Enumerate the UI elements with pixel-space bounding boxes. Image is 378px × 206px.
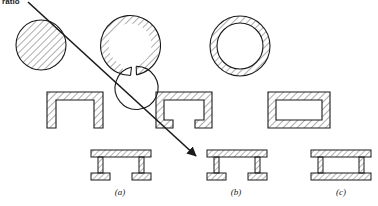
closed-box-beam [311, 150, 371, 180]
figure-drawing [0, 0, 378, 206]
split-flange-box-beam [207, 150, 267, 180]
lipped-channel-section [156, 92, 212, 128]
open-channel-section [47, 92, 103, 128]
caption-label-c: (c) [336, 187, 346, 197]
solid-circle-section [16, 20, 66, 70]
closed-box-section [268, 92, 330, 128]
caption-label-a: (a) [115, 187, 126, 197]
figure-container: ratio [0, 0, 378, 206]
closed-ring-section [206, 12, 274, 80]
open-double-web-beam [91, 150, 151, 180]
caption-label-b: (b) [231, 187, 242, 197]
